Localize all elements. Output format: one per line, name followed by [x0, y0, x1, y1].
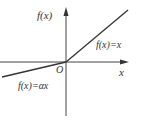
origin-label: O: [56, 64, 63, 75]
x-axis-label: x: [118, 66, 124, 78]
y-axis-arrow-icon: [64, 7, 69, 16]
positive-branch-label: f(x)=x: [96, 39, 122, 51]
positive-branch-line: [66, 10, 128, 62]
x-axis-arrow-icon: [120, 60, 129, 65]
function-graph: f(x) x O f(x)=x f(x)=αx: [0, 0, 141, 122]
negative-branch-label: f(x)=αx: [18, 80, 49, 92]
y-axis-label: f(x): [37, 9, 53, 22]
